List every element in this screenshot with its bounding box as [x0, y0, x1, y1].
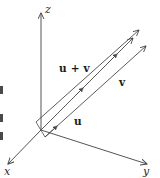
margin-fragment-middle [0, 114, 3, 122]
vector-addition-figure: z x y u + v v u [0, 0, 160, 178]
axis-label-x: x [4, 166, 10, 177]
vector-label-u-plus-v: u + v [59, 63, 90, 74]
axis-x [8, 130, 41, 164]
axis-y [41, 130, 147, 164]
figure-canvas [0, 0, 160, 178]
axis-label-z: z [45, 4, 51, 15]
vector-label-v: v [119, 77, 125, 88]
vector-label-u: u [74, 116, 82, 127]
vector-u-line [45, 46, 146, 137]
margin-fragment-top [0, 86, 3, 94]
margin-fragment-bottom [0, 132, 3, 140]
axis-label-y: y [143, 166, 149, 177]
